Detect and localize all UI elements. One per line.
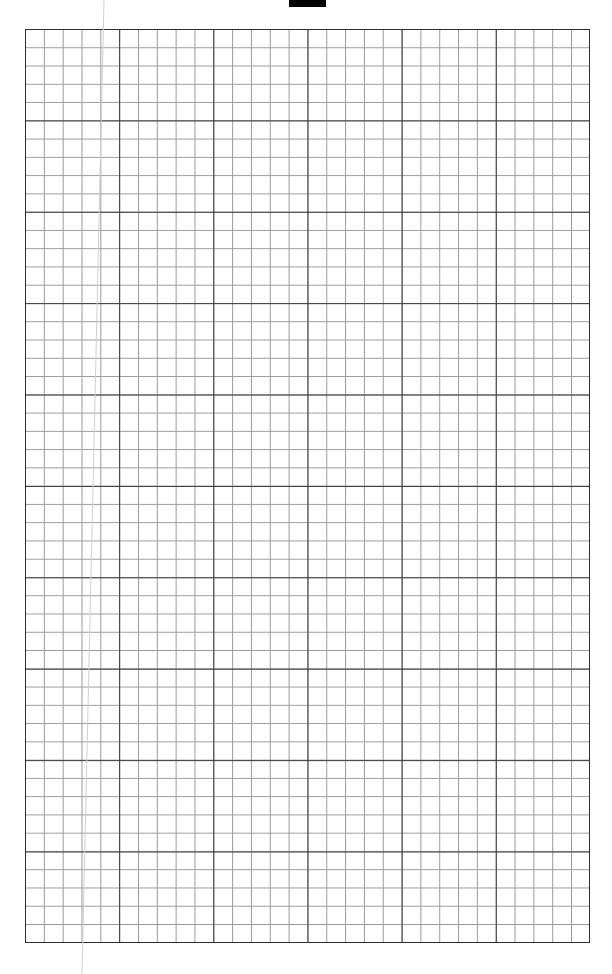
graph-paper-grid xyxy=(25,29,590,943)
black-tab-marker xyxy=(289,0,326,7)
top-header-strip xyxy=(0,0,612,10)
